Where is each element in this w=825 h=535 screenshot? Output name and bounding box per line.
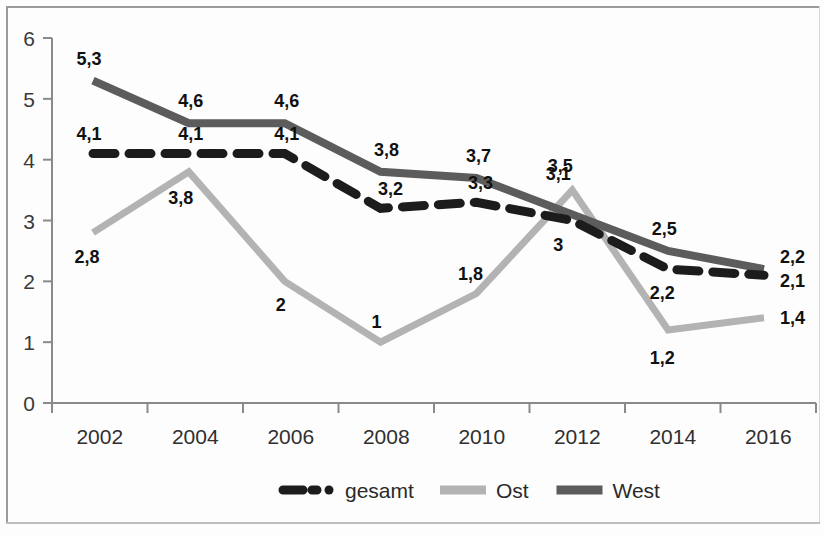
x-axis-tick-label: 2008 [363,425,410,448]
data-label-gesamt-2012: 3 [553,235,563,255]
x-axis-tick-label: 2010 [458,425,505,448]
legend-label-gesamt: gesamt [345,479,414,502]
y-axis-tick-label: 6 [23,27,35,50]
data-label-Ost-2006: 2 [276,295,286,315]
y-axis-tick-label: 5 [23,88,35,111]
y-axis-tick-label: 0 [23,392,35,415]
x-axis-tick-label: 2014 [649,425,696,448]
x-axis-tick-label: 2002 [76,425,123,448]
data-label-Ost-2010: 1,8 [458,264,483,284]
data-label-West-2008: 3,8 [374,140,399,160]
data-label-Ost-2016: 1,4 [780,308,805,328]
y-axis-tick-label: 1 [23,331,35,354]
data-label-West-2010: 3,7 [466,146,491,166]
data-label-Ost-2008: 1 [372,312,382,332]
data-label-gesamt-2004: 4,1 [178,124,203,144]
data-label-Ost-2002: 2,8 [74,247,99,267]
chart-legend: gesamtOstWest [283,479,660,502]
chart-container: 6543210 20022004200620082010201220142016… [0,0,825,535]
x-axis-tick-label: 2012 [554,425,601,448]
data-label-West-2016: 2,2 [780,247,805,267]
data-label-West-2012: 3,1 [546,164,571,184]
data-label-West-2004: 4,6 [178,91,203,111]
data-label-gesamt-2010: 3,3 [468,173,493,193]
legend-marker-dot-gesamt [325,486,334,495]
data-label-West-2002: 5,3 [76,49,101,69]
data-label-gesamt-2006: 4,1 [274,124,299,144]
data-label-gesamt-2002: 4,1 [76,124,101,144]
data-label-Ost-2014: 1,2 [650,348,675,368]
y-axis-tick-label: 4 [23,149,35,172]
x-axis-tick-label: 2016 [745,425,792,448]
x-axis-tick-label: 2006 [267,425,314,448]
y-axis-tick-label: 3 [23,210,35,233]
data-label-gesamt-2008: 3,2 [378,179,403,199]
legend-label-West: West [613,479,661,502]
data-label-West-2014: 2,5 [652,219,677,239]
data-label-Ost-2004: 3,8 [168,188,193,208]
legend-label-Ost: Ost [496,479,529,502]
data-label-gesamt-2014: 2,2 [650,283,675,303]
line-chart-plot: 6543210 20022004200620082010201220142016… [0,0,825,535]
series-line-Ost [93,172,764,342]
x-axis-tick-label: 2004 [172,425,219,448]
x-axis: 20022004200620082010201220142016 [52,403,816,448]
y-axis: 6543210 [23,27,52,415]
data-label-West-2006: 4,6 [274,91,299,111]
y-axis-tick-label: 2 [23,270,35,293]
data-label-gesamt-2016: 2,1 [780,271,805,291]
